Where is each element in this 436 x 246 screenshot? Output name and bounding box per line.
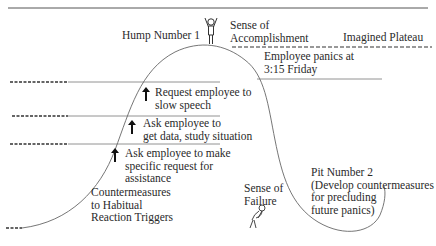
step-1-label: Request employee to slow speech	[155, 86, 251, 111]
hump-and-pit-diagram: Hump Number 1 Sense of Accomplishment Im…	[0, 0, 436, 246]
countermeasures-label: Countermeasures to Habitual Reaction Tri…	[91, 186, 173, 224]
step-3-label: Ask employee to make specific request fo…	[125, 147, 231, 185]
up-arrow-icon	[111, 148, 119, 162]
sense-of-failure-label: Sense of Failure	[244, 182, 283, 207]
imagined-plateau-label: Imagined Plateau	[343, 31, 423, 44]
up-arrow-icon	[128, 120, 136, 134]
hump-label: Hump Number 1	[122, 29, 200, 42]
stick-figure-sad-icon	[250, 205, 265, 228]
employee-panics-label: Employee panics at 3:15 Friday	[264, 50, 354, 75]
accomplishment-label: Sense of Accomplishment	[230, 19, 309, 44]
up-arrow-icon	[142, 87, 150, 101]
step-2-label: Ask employee to get data, study situatio…	[143, 117, 252, 142]
stick-figure-happy-icon	[205, 18, 217, 44]
pit-label: Pit Number 2 (Develop countermeasures fo…	[311, 166, 434, 216]
